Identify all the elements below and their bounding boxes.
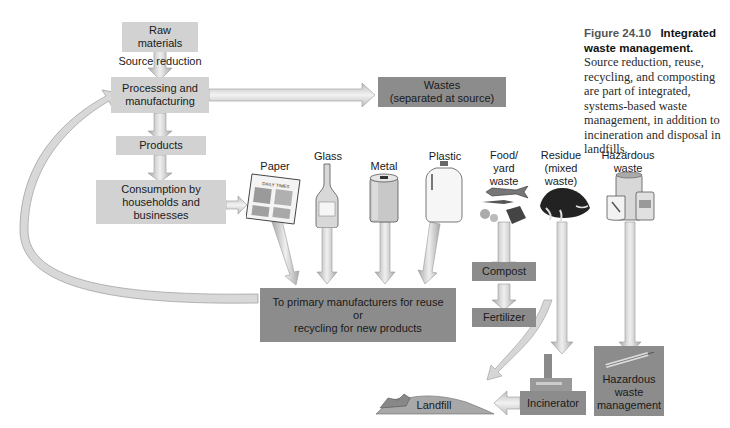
landfill-label: Landfill [404,399,464,412]
hazardous-management-label: Hazardous waste management [597,373,661,412]
arrow-metal-down [375,222,395,284]
figure-caption: Figure 24.10 Integrated waste management… [584,26,730,157]
source-reduction-label: Source reduction [110,55,210,68]
products-box: Products [116,136,206,155]
arrow-paper-down [272,220,299,285]
arrow-compost-to-fertilizer [492,284,516,310]
hazardous-containers-icon [606,172,656,224]
products-label: Products [139,139,182,152]
jug-icon [424,160,464,226]
fertilizer-label: Fertilizer [483,311,525,324]
reuse-recycling-label: To primary manufacturers for reuse or re… [272,296,443,335]
food-waste-icon [476,186,532,226]
arrow-processing-to-wastes [209,83,375,107]
arrow-consumption-to-paper [226,196,247,214]
bottle-icon [315,162,339,228]
arrow-products-to-consumption [148,155,172,182]
reuse-recycling-box: To primary manufacturers for reuse or re… [260,288,456,342]
mixed-waste-icon [536,182,592,224]
can-icon [368,172,400,226]
hazardous-management-box: Hazardous waste management [594,346,664,416]
compost-label: Compost [482,265,526,278]
arrow-incinerator-to-landfill [494,391,520,415]
incinerator-label: Incinerator [527,397,579,410]
processing-box: Processing and manufacturing [111,77,209,113]
figure-body: Source reduction, reuse, recycling, and … [584,55,721,156]
wastes-box: Wastes (separated at source) [378,77,506,107]
incinerator-box: Incinerator [520,391,586,415]
label-food-yard: Food/ yard waste [484,149,524,188]
raw-materials-label: Raw materials [138,24,183,50]
newspaper-icon: DAILY TIMES [246,172,302,226]
arrow-hazardous-down [619,222,641,354]
compost-box: Compost [472,262,536,281]
arrow-glass-down [317,222,337,284]
processing-label: Processing and manufacturing [122,82,198,108]
smokestack-icon [528,354,574,392]
figure-number: Figure 24.10 [584,27,651,39]
consumption-box: Consumption by households and businesses [96,180,226,224]
raw-materials-box: Raw materials [122,22,198,52]
fertilizer-box: Fertilizer [472,308,536,327]
arrow-plastic-down [418,222,440,284]
wastes-label: Wastes (separated at source) [390,79,495,105]
arrow-residue-to-incinerator [551,222,573,354]
syringe-icon [604,352,654,368]
consumption-label: Consumption by households and businesses [121,183,201,222]
